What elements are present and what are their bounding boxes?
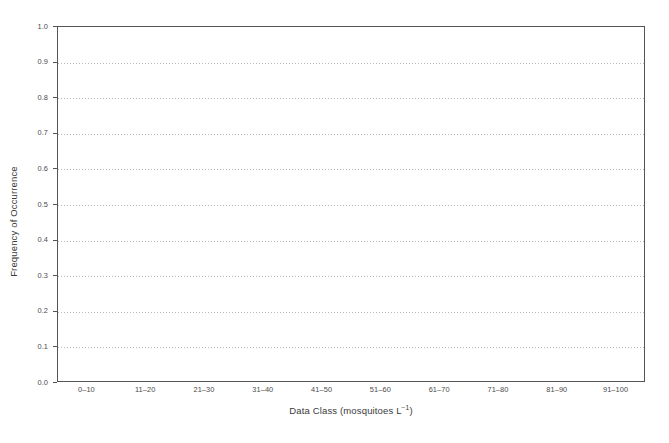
x-axis-title: Data Class (mosquitoes L−1) (57, 405, 645, 416)
x-axis-tick-label: 61–70 (410, 384, 469, 396)
y-axis-tick-label: 0.8 (37, 92, 48, 103)
chart-figure: Frequency of Occurrence 0.00.10.20.30.40… (0, 0, 669, 443)
y-axis-tick-label: 0.9 (37, 56, 48, 67)
x-axis-tick-label: 41–50 (292, 384, 351, 396)
plot-area (57, 26, 645, 382)
y-axis-tick-mark (53, 382, 57, 383)
x-axis-tick-label: 81–90 (527, 384, 586, 396)
y-axis-tick-label: 0.1 (37, 341, 48, 352)
y-axis-tick-label: 0.3 (37, 270, 48, 281)
y-axis-title: Frequency of Occurrence (0, 0, 26, 443)
x-axis-title-main: Data Class (mosquitoes L (289, 405, 401, 416)
x-axis-tick-label: 31–40 (233, 384, 292, 396)
y-axis-tick-label: 0.6 (37, 163, 48, 174)
bars-layer (58, 27, 644, 381)
x-axis-title-tail: ) (409, 405, 412, 416)
x-axis-tick-label: 71–80 (469, 384, 528, 396)
x-axis-tick-label: 91–100 (586, 384, 645, 396)
y-axis-tick-label: 0.4 (37, 234, 48, 245)
x-axis-tick-label: 51–60 (351, 384, 410, 396)
y-axis-tick-label: 0.5 (37, 199, 48, 210)
x-axis-tick-label: 21–30 (175, 384, 234, 396)
y-axis-tick-label: 0.2 (37, 305, 48, 316)
x-axis-tick-label: 0–10 (57, 384, 116, 396)
y-axis-tick-label: 0.0 (37, 377, 48, 388)
y-axis-tick-label: 1.0 (37, 21, 48, 32)
x-axis-tick-label: 11–20 (116, 384, 175, 396)
x-axis-tick-layer: 0–1011–2021–3031–4041–5051–6061–7071–808… (57, 384, 645, 400)
y-axis-tick-label: 0.7 (37, 127, 48, 138)
